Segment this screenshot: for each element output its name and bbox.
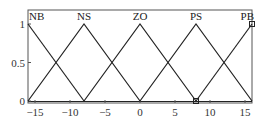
label-nb: NB bbox=[29, 10, 44, 22]
x-tick-label: 5 bbox=[172, 106, 178, 118]
label-ps: PS bbox=[190, 10, 202, 22]
x-tick-label: −5 bbox=[99, 106, 111, 118]
label-pb: PB bbox=[241, 10, 254, 22]
x-tick-label: 0 bbox=[137, 106, 143, 118]
series-labels: NBNSZOPSPB bbox=[29, 10, 254, 22]
series-zo-line bbox=[84, 24, 196, 101]
y-tick-label: 1 bbox=[20, 18, 26, 30]
x-tick-label: −15 bbox=[26, 106, 44, 118]
membership-lines bbox=[28, 24, 252, 101]
y-tick-label: 0.5 bbox=[11, 57, 25, 69]
series-ns-line bbox=[28, 24, 140, 101]
label-ns: NS bbox=[77, 10, 91, 22]
membership-function-chart: 00.51 −15−10−5051015 NBNSZOPSPB bbox=[0, 0, 265, 124]
series-ps-line bbox=[140, 24, 252, 101]
label-zo: ZO bbox=[133, 10, 148, 22]
y-tick-label: 0 bbox=[20, 95, 26, 107]
x-tick-label: 10 bbox=[205, 106, 217, 118]
x-tick-label: −10 bbox=[61, 106, 79, 118]
x-tick-label: 15 bbox=[240, 106, 252, 118]
